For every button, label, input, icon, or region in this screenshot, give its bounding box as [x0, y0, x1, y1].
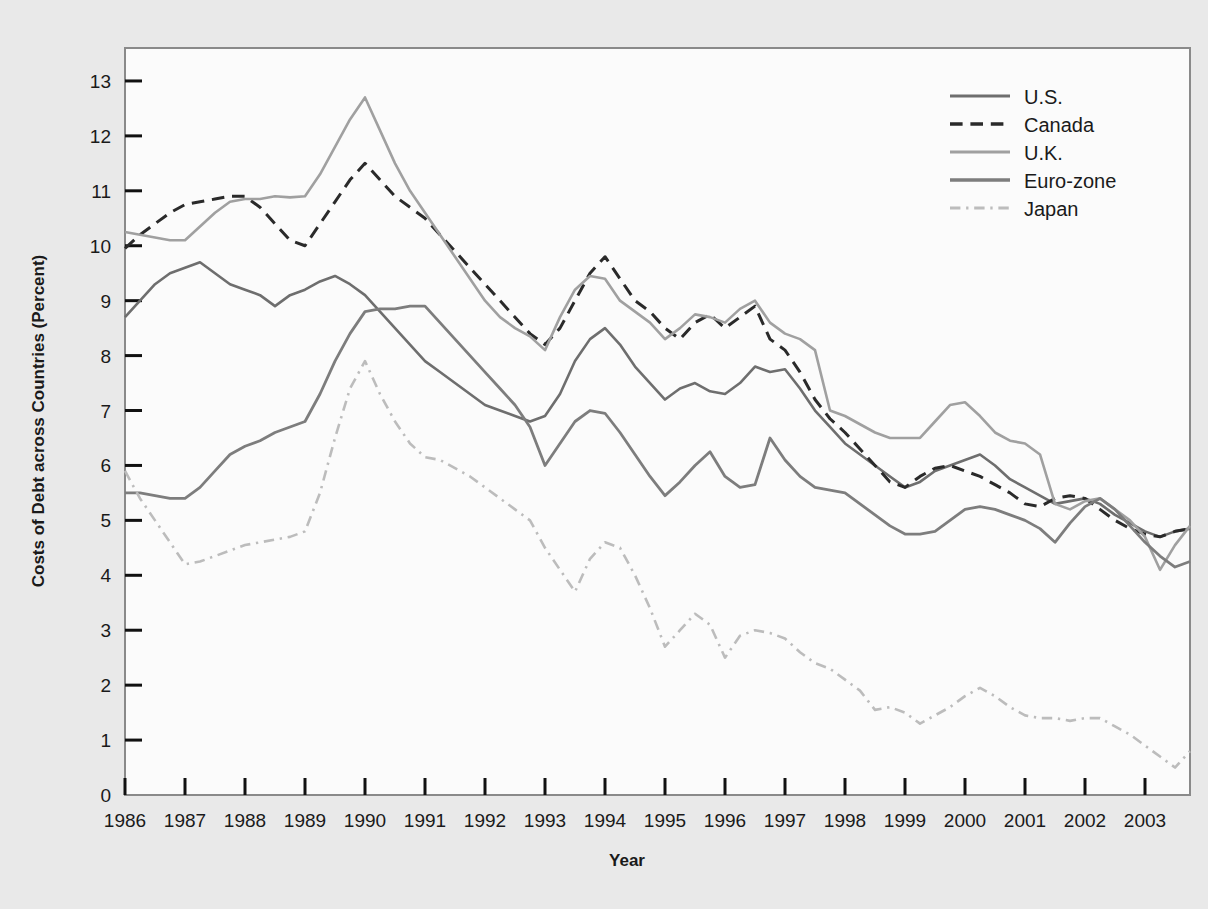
- legend-label-canada: Canada: [1024, 114, 1095, 136]
- x-tick-label: 1996: [704, 810, 746, 831]
- x-tick-label: 1989: [284, 810, 326, 831]
- x-tick-label: 1987: [164, 810, 206, 831]
- x-tick-label: 2002: [1064, 810, 1106, 831]
- x-tick-label: 1986: [104, 810, 146, 831]
- y-tick-label: 7: [100, 401, 111, 422]
- x-tick-label: 1988: [224, 810, 266, 831]
- y-axis-title: Costs of Debt across Countries (Percent): [29, 255, 48, 588]
- x-tick-label: 1991: [404, 810, 446, 831]
- y-tick-label: 3: [100, 620, 111, 641]
- legend-label-u-s: U.S.: [1024, 86, 1063, 108]
- y-tick-label: 9: [100, 291, 111, 312]
- y-tick-label: 13: [90, 71, 111, 92]
- y-tick-label: 10: [90, 236, 111, 257]
- y-tick-label: 11: [91, 181, 111, 202]
- x-tick-label: 1998: [824, 810, 866, 831]
- legend-label-japan: Japan: [1024, 198, 1079, 220]
- x-tick-label: 1997: [764, 810, 806, 831]
- y-tick-label: 8: [100, 346, 111, 367]
- legend-label-u-k: U.K.: [1024, 142, 1063, 164]
- y-tick-label: 6: [100, 455, 111, 476]
- y-tick-label: 4: [100, 565, 111, 586]
- x-tick-label: 1992: [464, 810, 506, 831]
- x-tick-label: 1995: [644, 810, 686, 831]
- x-tick-label: 2003: [1124, 810, 1166, 831]
- chart-figure: 012345678910111213 198619871988198919901…: [0, 0, 1208, 909]
- x-axis-title: Year: [609, 851, 645, 870]
- line-chart: 012345678910111213 198619871988198919901…: [0, 0, 1208, 909]
- x-tick-label: 1993: [524, 810, 566, 831]
- y-axis-tick-labels: 012345678910111213: [90, 71, 112, 806]
- y-tick-label: 2: [100, 675, 111, 696]
- y-tick-label: 5: [100, 510, 111, 531]
- x-axis-tick-labels: 1986198719881989199019911992199319941995…: [104, 810, 1166, 831]
- x-tick-label: 1990: [344, 810, 386, 831]
- x-tick-label: 2000: [944, 810, 986, 831]
- x-tick-label: 2001: [1004, 810, 1046, 831]
- y-tick-label: 1: [100, 730, 111, 751]
- y-tick-label: 12: [90, 126, 111, 147]
- legend-label-euro-zone: Euro-zone: [1024, 170, 1116, 192]
- x-tick-label: 1994: [584, 810, 627, 831]
- x-tick-label: 1999: [884, 810, 926, 831]
- y-tick-label: 0: [100, 785, 111, 806]
